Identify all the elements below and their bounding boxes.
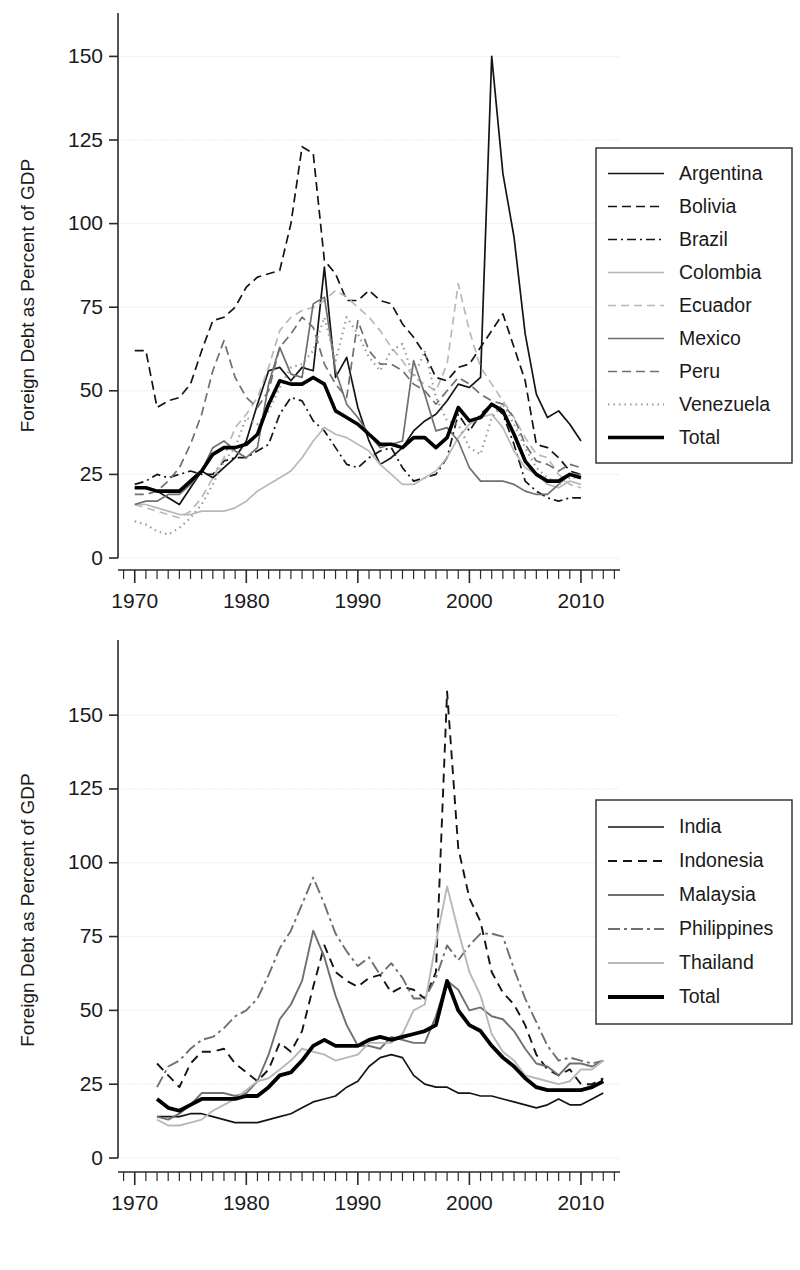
y-tick-label: 125 [68, 776, 103, 799]
x-tick-label: 1970 [111, 589, 158, 612]
series-line-total [157, 981, 603, 1111]
legend-label-bolivia: Bolivia [679, 195, 737, 217]
x-tick-label: 2000 [446, 1191, 493, 1214]
x-tick-label: 1990 [334, 589, 381, 612]
legend-label-malaysia: Malaysia [679, 883, 756, 905]
legend-label-indonesia: Indonesia [679, 849, 764, 871]
y-tick-label: 0 [91, 1146, 103, 1169]
x-tick-label: 1990 [334, 1191, 381, 1214]
x-tick-label: 2010 [558, 589, 605, 612]
x-tick-label: 1970 [111, 1191, 158, 1214]
y-tick-label: 50 [80, 378, 103, 401]
y-tick-label: 0 [91, 546, 103, 569]
series-group [135, 56, 581, 534]
y-tick-label: 50 [80, 998, 103, 1021]
legend-label-venezuela: Venezuela [679, 393, 770, 415]
y-tick-label: 75 [80, 924, 103, 947]
legend-label-india: India [679, 815, 721, 837]
series-line-thailand [157, 886, 603, 1125]
y-axis-title: Foreign Debt as Percent of GDP [17, 773, 38, 1047]
legend-label-thailand: Thailand [679, 951, 754, 973]
legend-label-colombia: Colombia [679, 261, 762, 283]
chart-latin-america: 025507510012515019701980199020002010Fore… [0, 0, 800, 635]
y-tick-label: 150 [68, 703, 103, 726]
legend-label-argentina: Argentina [679, 162, 763, 184]
series-group [157, 692, 603, 1126]
legend-label-mexico: Mexico [679, 327, 741, 349]
y-tick-label: 25 [80, 1072, 103, 1095]
series-line-malaysia [157, 931, 603, 1120]
chart-latin-america-svg: 025507510012515019701980199020002010Fore… [0, 0, 800, 635]
y-tick-label: 150 [68, 44, 103, 67]
y-tick-label: 100 [68, 850, 103, 873]
figure-page: 025507510012515019701980199020002010Fore… [0, 0, 800, 1270]
y-tick-label: 100 [68, 211, 103, 234]
x-tick-label: 2000 [446, 589, 493, 612]
x-tick-label: 2010 [558, 1191, 605, 1214]
y-axis-title: Foreign Debt as Percent of GDP [17, 159, 38, 433]
y-tick-label: 25 [80, 462, 103, 485]
y-tick-label: 125 [68, 128, 103, 151]
legend-label-ecuador: Ecuador [679, 294, 752, 316]
series-line-ecuador [135, 284, 581, 518]
x-tick-label: 1980 [223, 589, 270, 612]
legend-label-brazil: Brazil [679, 228, 728, 250]
legend-label-peru: Peru [679, 360, 720, 382]
x-tick-label: 1980 [223, 1191, 270, 1214]
series-line-colombia [135, 414, 581, 514]
y-tick-label: 75 [80, 295, 103, 318]
legend-label-total: Total [679, 426, 720, 448]
legend-label-philippines: Philippines [679, 917, 774, 939]
chart-asia: 025507510012515019701980199020002010Fore… [0, 635, 800, 1270]
legend-label-total: Total [679, 985, 720, 1007]
chart-asia-svg: 025507510012515019701980199020002010Fore… [0, 635, 800, 1270]
